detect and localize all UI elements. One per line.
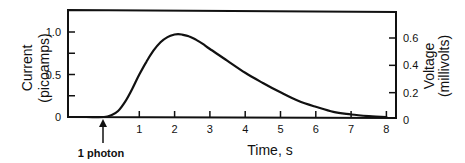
x-tick-label: 8 [383, 123, 389, 135]
y2-axis-ticks: 00.20.40.6 [389, 32, 418, 126]
y-tick-label: 0 [55, 111, 61, 123]
x-axis-title: Time, s [247, 142, 292, 158]
photon-annotation: 1 photon [78, 119, 125, 159]
response-curve [70, 34, 386, 117]
y2-tick-label: 0.6 [403, 32, 418, 44]
x-tick-label: 6 [313, 123, 319, 135]
arrow-up-icon [99, 119, 107, 127]
y-axis-title-units: (picoamps) [36, 33, 52, 102]
y-axis-title: Current [19, 45, 35, 92]
x-tick-label: 7 [348, 123, 354, 135]
x-tick-label: 2 [172, 123, 178, 135]
y2-axis-title: Voltage [421, 42, 437, 89]
x-tick-label: 1 [136, 123, 142, 135]
y2-tick-label: 0 [403, 114, 409, 126]
x-tick-label: 3 [207, 123, 213, 135]
y2-tick-label: 0.2 [403, 87, 418, 99]
photon-response-chart: 00.51.0 00.20.40.6 12345678 Current (pic… [0, 0, 465, 163]
photon-label: 1 photon [78, 147, 125, 159]
y2-tick-label: 0.4 [403, 59, 418, 71]
y2-axis-title-units: (millivolts) [436, 35, 452, 97]
x-tick-label: 5 [277, 123, 283, 135]
x-tick-label: 4 [242, 123, 248, 135]
